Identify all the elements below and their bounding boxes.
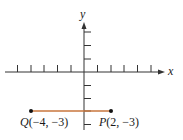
point-p: [109, 109, 113, 113]
point-q-label: Q(−4, −3): [20, 115, 68, 129]
y-axis-arrow-icon: [82, 22, 87, 29]
point-q: [29, 109, 33, 113]
y-axis-label: y: [79, 7, 86, 21]
point-p-label: P(2, −3): [98, 115, 139, 129]
x-axis-arrow-icon: [158, 70, 165, 75]
x-axis-label: x: [167, 64, 174, 78]
coordinate-plane: x y Q(−4, −3) P(2, −3): [0, 0, 183, 140]
